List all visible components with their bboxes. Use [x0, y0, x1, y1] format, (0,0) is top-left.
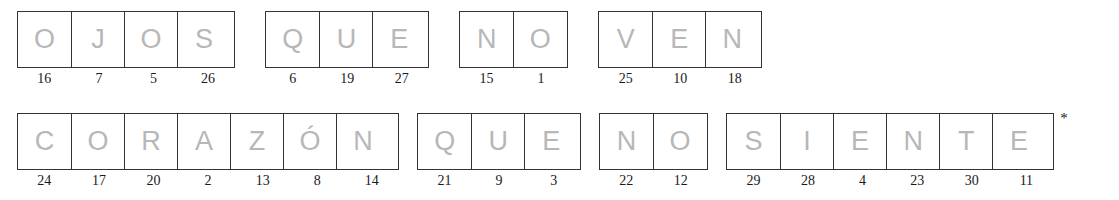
letter-cells: SIENTE — [726, 113, 1054, 170]
clue-number: 14 — [345, 171, 400, 191]
letter-cell[interactable]: Ó — [283, 114, 336, 169]
clue-number: 6 — [265, 69, 320, 89]
cell-letter: J — [91, 26, 105, 53]
clue-number: 28 — [781, 171, 836, 191]
letter-cell[interactable]: A — [177, 114, 230, 169]
word-group-no: NO2212 — [599, 113, 708, 191]
word-group-ojos: OJOS167526 — [17, 11, 235, 89]
clue-number: 3 — [526, 171, 581, 191]
clue-number: 24 — [17, 171, 72, 191]
clue-number: 20 — [126, 171, 181, 191]
cell-letter: E — [542, 128, 560, 155]
word-group-siente: SIENTE29284233011* — [726, 113, 1054, 191]
clue-number: 15 — [459, 69, 514, 89]
cell-letter: R — [141, 128, 161, 155]
letter-cell[interactable]: O — [18, 12, 71, 67]
clue-numbers: 167526 — [17, 69, 235, 89]
letter-cell[interactable]: R — [124, 114, 177, 169]
letter-cell[interactable]: S — [177, 12, 230, 67]
letter-cell[interactable]: N — [886, 114, 939, 169]
cell-letter: T — [958, 128, 975, 155]
letter-cell[interactable]: N — [600, 114, 653, 169]
letter-cell[interactable]: T — [939, 114, 992, 169]
letter-cell[interactable]: N — [705, 12, 758, 67]
cell-letter: N — [617, 128, 637, 155]
clue-number: 9 — [472, 171, 527, 191]
letter-cell[interactable]: O — [124, 12, 177, 67]
letter-cell[interactable]: S — [727, 114, 780, 169]
clue-number: 29 — [726, 171, 781, 191]
letter-cells: VEN — [598, 11, 762, 68]
clue-number: 30 — [945, 171, 1000, 191]
letter-cell[interactable]: E — [833, 114, 886, 169]
letter-cell[interactable]: N — [336, 114, 389, 169]
letter-cell[interactable]: Q — [418, 114, 471, 169]
letter-cell[interactable]: E — [992, 114, 1045, 169]
cell-letter: O — [140, 26, 161, 53]
letter-cell[interactable]: O — [71, 114, 124, 169]
letter-cell[interactable]: I — [780, 114, 833, 169]
clue-number: 12 — [654, 171, 709, 191]
clue-number: 13 — [235, 171, 290, 191]
clue-number: 26 — [181, 69, 236, 89]
letter-cell[interactable]: O — [653, 114, 706, 169]
word-group-que: QUE61927 — [265, 11, 429, 89]
cell-letter: S — [195, 26, 213, 53]
clue-number: 19 — [320, 69, 375, 89]
letter-cell[interactable]: E — [652, 12, 705, 67]
clue-numbers: 61927 — [265, 69, 429, 89]
letter-cells: OJOS — [17, 11, 235, 68]
puzzle-row-1: OJOS167526QUE61927NO151VEN251018 — [17, 11, 762, 89]
cell-letter: N — [353, 128, 373, 155]
word-group-que: QUE2193 — [417, 113, 581, 191]
letter-cell[interactable]: J — [71, 12, 124, 67]
letter-cell[interactable]: C — [18, 114, 71, 169]
clue-number: 16 — [17, 69, 72, 89]
word-group-no: NO151 — [459, 11, 568, 89]
letter-cell[interactable]: Q — [266, 12, 319, 67]
clue-number: 4 — [835, 171, 890, 191]
letter-cells: NO — [599, 113, 708, 170]
clue-numbers: 2193 — [417, 171, 581, 191]
cell-letter: N — [477, 26, 497, 53]
letter-cell[interactable]: U — [471, 114, 524, 169]
letter-cell[interactable]: O — [513, 12, 566, 67]
letter-cells: CORAZÓN — [17, 113, 399, 170]
cell-letter: S — [745, 128, 763, 155]
clue-number: 18 — [708, 69, 763, 89]
clue-numbers: 241720213814 — [17, 171, 399, 191]
letter-cell[interactable]: N — [460, 12, 513, 67]
cryptogram-puzzle: OJOS167526QUE61927NO151VEN251018 CORAZÓN… — [0, 0, 1119, 200]
cell-letter: Ó — [299, 128, 320, 155]
cell-letter: Q — [282, 26, 303, 53]
clue-number: 27 — [375, 69, 430, 89]
cell-letter: O — [87, 128, 108, 155]
letter-cell[interactable]: Z — [230, 114, 283, 169]
clue-number: 2 — [181, 171, 236, 191]
cell-letter: V — [617, 26, 635, 53]
clue-number: 25 — [598, 69, 653, 89]
clue-number: 1 — [514, 69, 569, 89]
letter-cells: QUE — [417, 113, 581, 170]
clue-number: 23 — [890, 171, 945, 191]
cell-letter: E — [851, 128, 869, 155]
clue-number: 21 — [417, 171, 472, 191]
cell-letter: O — [530, 26, 551, 53]
letter-cell[interactable]: U — [319, 12, 372, 67]
clue-number: 8 — [290, 171, 345, 191]
cell-letter: E — [1010, 128, 1028, 155]
cell-letter: E — [670, 26, 688, 53]
letter-cell[interactable]: E — [372, 12, 425, 67]
cell-letter: U — [488, 128, 508, 155]
cell-letter: O — [669, 128, 690, 155]
word-group-ven: VEN251018 — [598, 11, 762, 89]
cell-letter: Z — [249, 128, 266, 155]
letter-cells: NO — [459, 11, 568, 68]
clue-numbers: 151 — [459, 69, 568, 89]
letter-cell[interactable]: V — [599, 12, 652, 67]
clue-numbers: 29284233011 — [726, 171, 1054, 191]
cell-letter: A — [195, 128, 213, 155]
letter-cell[interactable]: E — [524, 114, 577, 169]
cell-letter: O — [34, 26, 55, 53]
clue-number: 17 — [72, 171, 127, 191]
